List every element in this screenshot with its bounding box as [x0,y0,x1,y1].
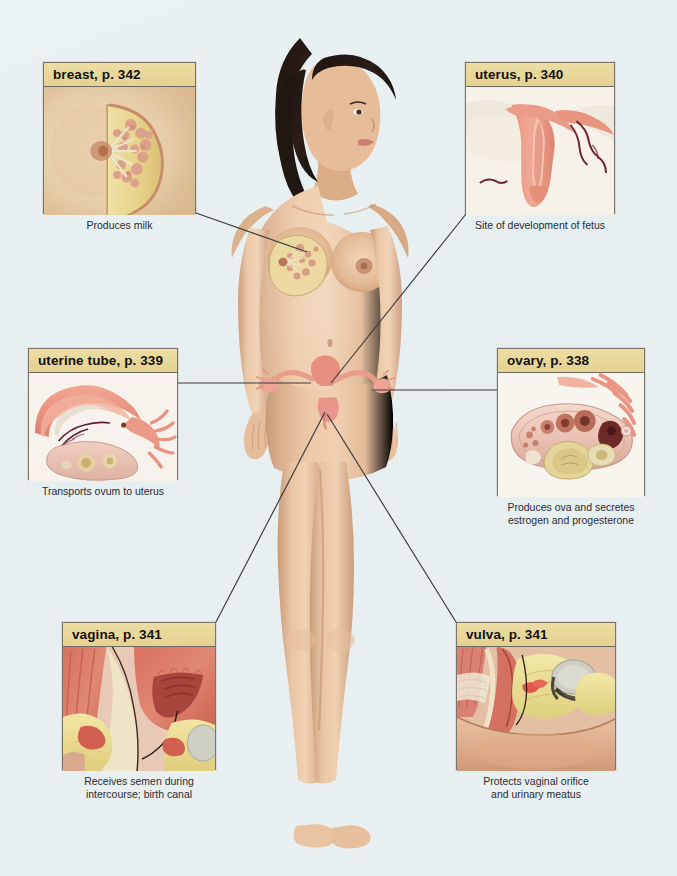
callout-label-uterus: uterus, p. 340 [466,63,614,87]
callout-art-vagina-sagittal-section [63,647,215,771]
callout-caption-ovary: Produces ova and secretes estrogen and p… [497,501,645,526]
callout-breast[interactable]: breast, p. 342 [43,62,196,232]
anatomy-figure-page: breast, p. 342 [0,0,677,876]
callout-vagina[interactable]: vagina, p. 341 [62,622,216,800]
callout-label-breast: breast, p. 342 [44,63,195,87]
leader-line-uterus [331,214,466,383]
callout-caption-vagina: Receives semen during intercourse; birth… [62,775,216,800]
leader-line-breast [196,213,307,252]
leader-line-vagina [216,412,325,622]
callout-art-vulva-sagittal-section [457,647,615,771]
callout-vulva[interactable]: vulva, p. 341 [456,622,616,800]
callout-art-uterus-coronal-section [466,87,614,215]
callout-label-ovary: ovary, p. 338 [498,349,644,373]
callout-art-breast-sagittal-cutaway [44,87,195,215]
callout-box-breast[interactable]: breast, p. 342 [43,62,196,214]
callout-box-vagina[interactable]: vagina, p. 341 [62,622,216,770]
callout-label-vulva: vulva, p. 341 [457,623,615,647]
callout-caption-uterus: Site of development of fetus [465,219,615,232]
callout-art-uterine-tube-with-fimbriae [29,373,177,481]
callout-uterine-tube[interactable]: uterine tube, p. 339 [28,348,178,498]
callout-uterus[interactable]: uterus, p. 340 [465,62,615,232]
callout-label-uterine-tube: uterine tube, p. 339 [29,349,177,373]
callout-label-vagina: vagina, p. 341 [63,623,215,647]
callout-box-ovary[interactable]: ovary, p. 338 [497,348,645,496]
callout-box-vulva[interactable]: vulva, p. 341 [456,622,616,770]
leader-line-vulva [327,414,456,622]
callout-caption-uterine-tube: Transports ovum to uterus [28,485,178,498]
callout-art-ovary-follicle-section [498,373,644,497]
callout-box-uterine-tube[interactable]: uterine tube, p. 339 [28,348,178,480]
callout-caption-breast: Produces milk [43,219,196,232]
callout-ovary[interactable]: ovary, p. 338 [497,348,645,526]
callout-caption-vulva: Protects vaginal orifice and urinary mea… [456,775,616,800]
callout-box-uterus[interactable]: uterus, p. 340 [465,62,615,214]
